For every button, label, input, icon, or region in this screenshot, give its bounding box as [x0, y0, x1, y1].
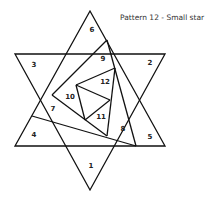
label-12: 12 [100, 78, 110, 86]
label-3: 3 [32, 61, 37, 69]
label-1: 1 [89, 162, 94, 170]
label-2: 2 [148, 59, 153, 67]
label-7: 7 [51, 105, 56, 113]
label-4: 4 [32, 131, 37, 139]
label-6: 6 [90, 26, 95, 34]
label-11: 11 [96, 113, 106, 121]
label-8: 8 [121, 125, 126, 133]
star-pattern-diagram: 1 2 3 4 5 6 7 8 9 10 11 12 [0, 0, 212, 201]
label-10: 10 [65, 93, 75, 101]
label-5: 5 [148, 133, 153, 141]
label-9: 9 [101, 55, 106, 63]
